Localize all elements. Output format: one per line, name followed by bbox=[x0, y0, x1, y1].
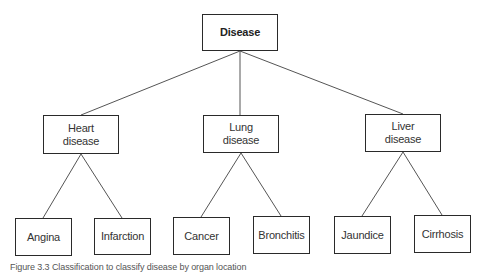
edge-disease-heart bbox=[81, 51, 240, 115]
edge-liver-cirrhosis bbox=[403, 152, 442, 215]
edge-lung-bronchitis bbox=[241, 153, 281, 216]
node-label: Jaundice bbox=[341, 229, 383, 242]
edge-heart-infarction bbox=[81, 154, 122, 218]
node-label: Cancer bbox=[184, 230, 218, 243]
node-cirrhosis: Cirrhosis bbox=[414, 215, 471, 253]
node-heart-disease: Heart disease bbox=[43, 115, 119, 154]
node-label: Liver disease bbox=[385, 120, 422, 146]
node-label: Infarction bbox=[101, 230, 144, 243]
node-disease: Disease bbox=[202, 14, 278, 51]
node-label: Disease bbox=[220, 26, 260, 39]
node-bronchitis: Bronchitis bbox=[253, 216, 310, 254]
disease-tree-diagram: Disease Heart disease Lung disease Liver… bbox=[0, 0, 485, 273]
edge-heart-angina bbox=[43, 154, 81, 218]
node-lung-disease: Lung disease bbox=[203, 115, 279, 153]
node-angina: Angina bbox=[15, 218, 72, 256]
node-liver-disease: Liver disease bbox=[365, 114, 441, 152]
node-cancer: Cancer bbox=[173, 217, 230, 255]
node-label: Heart disease bbox=[63, 122, 100, 148]
edge-liver-jaundice bbox=[362, 152, 403, 216]
node-label: Cirrhosis bbox=[422, 228, 464, 241]
node-label: Angina bbox=[27, 231, 60, 244]
node-jaundice: Jaundice bbox=[334, 216, 391, 254]
node-label: Bronchitis bbox=[258, 229, 304, 242]
edge-disease-liver bbox=[240, 51, 403, 114]
edge-lung-cancer bbox=[201, 153, 241, 217]
node-infarction: Infarction bbox=[94, 218, 151, 255]
figure-caption: Figure 3.3 Classification to classify di… bbox=[10, 262, 246, 272]
node-label: Lung disease bbox=[223, 121, 260, 147]
